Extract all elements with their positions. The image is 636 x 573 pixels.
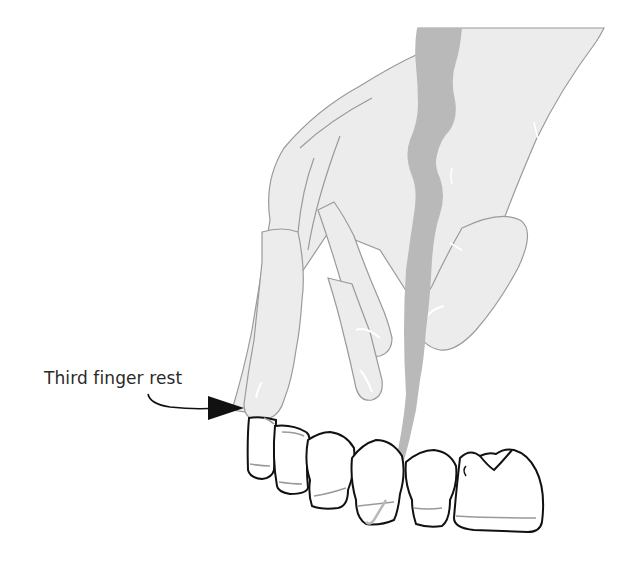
- tooth-5: [406, 450, 457, 527]
- tooth-6: [454, 450, 543, 533]
- tooth-3: [306, 432, 354, 509]
- arrow-pointer: [148, 394, 244, 420]
- third-finger-rest-label: Third finger rest: [44, 368, 182, 388]
- tooth-1: [248, 417, 276, 479]
- teeth: [248, 417, 543, 532]
- illustration: [0, 0, 636, 573]
